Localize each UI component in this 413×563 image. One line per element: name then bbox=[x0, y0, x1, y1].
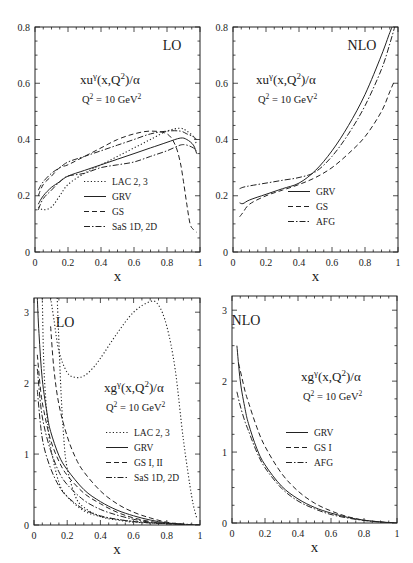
y-tick-label: 0.6 bbox=[216, 78, 229, 89]
x-tick-label: 0.4 bbox=[94, 530, 107, 541]
legend-entry: SaS 1D, 2D bbox=[112, 222, 157, 232]
x-tick-label: 0.6 bbox=[127, 530, 140, 541]
legend-entry: GS bbox=[112, 207, 124, 217]
legend-entry: LAC 2, 3 bbox=[134, 428, 170, 438]
y-tick-label: 0.2 bbox=[216, 190, 229, 201]
order-tag: LO bbox=[163, 38, 182, 53]
x-tick-label: 0.4 bbox=[292, 528, 305, 539]
x-tick-label: 0.2 bbox=[259, 528, 272, 539]
y-tick-label: 1 bbox=[24, 449, 29, 460]
legend-entry: AFG bbox=[314, 458, 333, 468]
legend: GRVGS IAFG bbox=[286, 428, 333, 468]
chart-subtitle: Q2 = 10 GeV2 bbox=[258, 92, 317, 105]
x-tick-label: 1 bbox=[198, 257, 203, 268]
y-tick-label: 0.6 bbox=[18, 78, 31, 89]
x-tick-label: 0.2 bbox=[62, 257, 75, 268]
legend-entry: GS bbox=[316, 202, 328, 212]
chart-panel-top-left: 00.20.40.60.8100.20.40.60.8xLOxuγ(x,Q2)/… bbox=[18, 22, 203, 285]
x-tick-label: 1 bbox=[198, 530, 203, 541]
x-tick-label: 0.4 bbox=[95, 257, 108, 268]
chart-subtitle: Q2 = 10 GeV2 bbox=[106, 400, 165, 413]
order-tag: NLO bbox=[232, 313, 261, 328]
chart-panel-bottom-right: 00.20.40.60.810123xNLOxgγ(x,Q2)/αQ2 = 10… bbox=[222, 296, 400, 555]
legend-entry: GS I, II bbox=[134, 458, 163, 468]
x-tick-label: 0 bbox=[231, 257, 236, 268]
x-axis-label: x bbox=[113, 541, 121, 557]
chart-title: xgγ(x,Q2)/α bbox=[104, 379, 164, 395]
legend-entry: GRV bbox=[316, 187, 335, 197]
x-tick-label: 0.8 bbox=[161, 257, 174, 268]
legend-entry: GRV bbox=[314, 428, 333, 438]
x-tick-label: 1 bbox=[395, 528, 400, 539]
y-tick-label: 0.2 bbox=[18, 190, 31, 201]
legend-entry: SaS 1D, 2D bbox=[134, 473, 179, 483]
legend: GRVGSAFG bbox=[288, 187, 335, 227]
x-tick-label: 0.6 bbox=[325, 528, 338, 539]
x-tick-label: 0.6 bbox=[128, 257, 141, 268]
legend-entry: GRV bbox=[112, 192, 131, 202]
x-tick-label: 0 bbox=[33, 257, 38, 268]
chart-panel-bottom-left: 00.20.40.60.810123xLOxgγ(x,Q2)/αQ2 = 10 … bbox=[24, 298, 203, 557]
legend-entry: GRV bbox=[134, 443, 153, 453]
y-tick-label: 0 bbox=[222, 518, 227, 529]
y-tick-label: 3 bbox=[24, 307, 29, 318]
x-tick-label: 0 bbox=[32, 530, 37, 541]
x-tick-label: 0.4 bbox=[293, 257, 306, 268]
order-tag: NLO bbox=[348, 38, 377, 53]
y-tick-label: 2 bbox=[24, 378, 29, 389]
x-tick-label: 0 bbox=[230, 528, 235, 539]
y-tick-label: 0 bbox=[24, 520, 29, 531]
x-axis-label: x bbox=[311, 539, 319, 555]
chart-subtitle: Q2 = 10 GeV2 bbox=[303, 389, 362, 402]
legend-entry: GS I bbox=[314, 443, 332, 453]
legend-entry: AFG bbox=[316, 217, 335, 227]
figure-canvas: 00.20.40.60.8100.20.40.60.8xLOxuγ(x,Q2)/… bbox=[0, 0, 413, 563]
series-line bbox=[51, 326, 200, 525]
x-tick-label: 0.2 bbox=[61, 530, 74, 541]
y-tick-label: 0 bbox=[25, 247, 30, 258]
y-tick-label: 0.8 bbox=[18, 22, 31, 33]
x-tick-label: 0.8 bbox=[358, 528, 371, 539]
y-tick-label: 0 bbox=[223, 247, 228, 258]
x-axis-label: x bbox=[114, 268, 122, 284]
x-axis-label: x bbox=[312, 268, 320, 284]
x-tick-label: 1 bbox=[396, 257, 401, 268]
plot-frame bbox=[232, 296, 397, 523]
y-tick-label: 3 bbox=[222, 305, 227, 316]
chart-subtitle: Q2 = 10 GeV2 bbox=[82, 92, 141, 105]
y-tick-label: 0.8 bbox=[216, 22, 229, 33]
x-tick-label: 0.6 bbox=[326, 257, 339, 268]
y-tick-label: 0.4 bbox=[18, 134, 31, 145]
legend: LAC 2, 3GRVGSSaS 1D, 2D bbox=[84, 177, 157, 232]
chart-panel-top-right: 00.20.40.60.8100.20.40.60.8xNLOxuγ(x,Q2)… bbox=[216, 21, 401, 284]
y-tick-label: 1 bbox=[222, 447, 227, 458]
x-tick-label: 0.8 bbox=[161, 530, 174, 541]
x-tick-label: 0.8 bbox=[359, 257, 372, 268]
y-tick-label: 0.4 bbox=[216, 134, 229, 145]
legend: LAC 2, 3GRVGS I, IISaS 1D, 2D bbox=[106, 428, 179, 483]
chart-title: xuγ(x,Q2)/α bbox=[256, 71, 316, 87]
chart-title: xgγ(x,Q2)/α bbox=[301, 368, 361, 384]
y-tick-label: 2 bbox=[222, 376, 227, 387]
legend-entry: LAC 2, 3 bbox=[112, 177, 148, 187]
chart-title: xuγ(x,Q2)/α bbox=[80, 71, 140, 87]
order-tag: LO bbox=[56, 315, 75, 330]
x-tick-label: 0.2 bbox=[260, 257, 273, 268]
